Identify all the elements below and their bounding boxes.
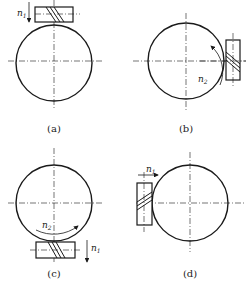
speed-label-d: n1 <box>146 164 156 175</box>
panel-b <box>133 13 246 110</box>
caption-c: (c) <box>47 268 61 279</box>
panel-c <box>8 148 104 262</box>
rotation-arrow-b <box>211 46 223 85</box>
speed-label-c-worm: n1 <box>91 243 101 254</box>
caption-a: (a) <box>47 123 61 134</box>
caption-d: (d) <box>183 268 197 279</box>
speed-label-b: n2 <box>198 74 208 85</box>
worm-gear-diagram: n1 n2 n2 n1 n1 (a) (b) (c) (d) <box>0 0 246 289</box>
speed-label-c-wheel: n2 <box>42 220 52 231</box>
speed-label-a: n1 <box>17 8 27 19</box>
panel-d <box>136 152 246 252</box>
caption-b: (b) <box>179 123 193 134</box>
